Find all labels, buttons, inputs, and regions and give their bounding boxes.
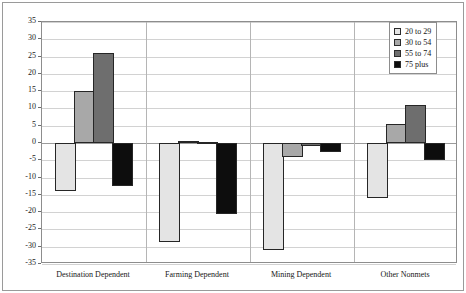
bar	[159, 143, 180, 242]
y-axis-tick-label: 15	[2, 86, 36, 94]
y-axis-tick-mark	[38, 38, 41, 39]
x-axis-category-label: Destination Dependent	[41, 271, 145, 279]
x-axis-category-label: Mining Dependent	[249, 271, 353, 279]
bar	[386, 124, 407, 143]
y-axis-tick-label: 20	[2, 69, 36, 77]
y-axis-tick-mark	[38, 90, 41, 91]
legend-swatch-icon	[394, 50, 401, 57]
y-axis-tick-label: 10	[2, 103, 36, 111]
gridline	[42, 195, 456, 196]
legend-item-label: 55 to 74	[405, 50, 431, 58]
group-separator	[250, 22, 251, 262]
bar	[301, 143, 322, 146]
y-axis-tick-mark	[38, 228, 41, 229]
y-axis-tick-label: -35	[2, 259, 36, 267]
y-axis-tick-mark	[38, 211, 41, 212]
y-axis-tick-label: 5	[2, 121, 36, 129]
y-axis-tick-label: 0	[2, 138, 36, 146]
y-axis-tick-mark	[38, 194, 41, 195]
y-axis-tick-label: -25	[2, 224, 36, 232]
bar	[216, 143, 237, 214]
legend-item-label: 20 to 29	[405, 28, 431, 36]
bar	[320, 143, 341, 152]
bar	[112, 143, 133, 186]
legend-item: 20 to 29	[394, 26, 431, 37]
zero-line	[42, 143, 456, 144]
legend-swatch-icon	[394, 61, 401, 68]
bar	[74, 91, 95, 143]
bar	[93, 53, 114, 143]
gridline	[42, 264, 456, 265]
y-axis-tick-mark	[38, 159, 41, 160]
legend-item: 30 to 54	[394, 37, 431, 48]
gridline	[42, 160, 456, 161]
group-separator	[146, 22, 147, 262]
legend-swatch-icon	[394, 28, 401, 35]
y-axis-tick-mark	[38, 107, 41, 108]
bar	[55, 143, 76, 191]
bar	[405, 105, 426, 143]
y-axis-tick-label: 30	[2, 34, 36, 42]
chart-legend: 20 to 2930 to 5455 to 7475 plus	[389, 22, 437, 74]
y-axis-tick-mark	[38, 125, 41, 126]
bar	[197, 142, 218, 144]
y-axis-tick-mark	[38, 21, 41, 22]
legend-swatch-icon	[394, 39, 401, 46]
legend-item: 75 plus	[394, 59, 431, 70]
bar	[282, 143, 303, 157]
bar	[367, 143, 388, 198]
y-axis-tick-label: -30	[2, 242, 36, 250]
legend-item-label: 30 to 54	[405, 39, 431, 47]
bar	[424, 143, 445, 160]
y-axis-tick-label: -10	[2, 173, 36, 181]
y-axis-tick-label: 25	[2, 52, 36, 60]
bar	[263, 143, 284, 250]
gridline	[42, 247, 456, 248]
gridline	[42, 229, 456, 230]
x-axis-category-label: Other Nonmets	[353, 271, 457, 279]
y-axis-tick-mark	[38, 142, 41, 143]
y-axis-tick-mark	[38, 177, 41, 178]
y-axis-tick-label: 35	[2, 17, 36, 25]
y-axis-tick-mark	[38, 246, 41, 247]
legend-item-label: 75 plus	[405, 61, 428, 69]
gridline	[42, 178, 456, 179]
y-axis-tick-mark	[38, 56, 41, 57]
bar	[178, 141, 199, 143]
y-axis-tick-label: -20	[2, 207, 36, 215]
y-axis-tick-label: -5	[2, 155, 36, 163]
y-axis-tick-label: -15	[2, 190, 36, 198]
gridline	[42, 212, 456, 213]
group-separator	[354, 22, 355, 262]
y-axis-tick-mark	[38, 73, 41, 74]
chart-figure: 20 to 2930 to 5455 to 7475 plus 35302520…	[0, 0, 466, 293]
y-axis-tick-mark	[38, 263, 41, 264]
x-axis-category-label: Farming Dependent	[145, 271, 249, 279]
legend-item: 55 to 74	[394, 48, 431, 59]
